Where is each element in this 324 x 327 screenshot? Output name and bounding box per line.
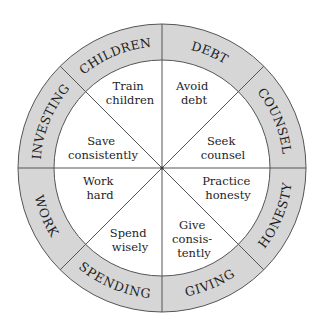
center-dot [161, 167, 164, 170]
segment-debt: Avoid debt [175, 79, 212, 107]
segment-spending: Spend wisely [110, 226, 150, 254]
segment-counsel: Seek counsel [201, 134, 246, 162]
segment-work: Work hard [83, 174, 117, 202]
segment-honesty: Practice honesty [202, 174, 254, 202]
financial-wheel-diagram: CHILDREN DEBT COUNSEL HONESTY GIVING SPE… [0, 0, 324, 327]
